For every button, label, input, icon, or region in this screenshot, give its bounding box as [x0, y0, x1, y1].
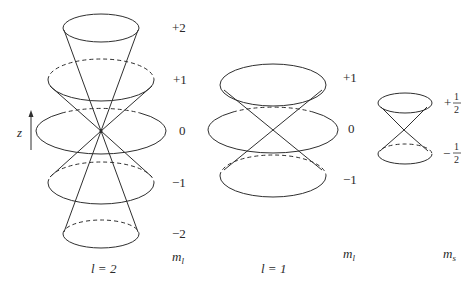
panel-l2: +2 +1 0 −1 −2 ml l = 2 — [36, 14, 187, 276]
label-l1-m+1: +1 — [343, 70, 357, 85]
ellipse-l2-m-2-back — [63, 220, 139, 234]
origin-point — [99, 129, 102, 132]
ellipse-l2-m-2-front — [63, 234, 139, 248]
label-l2-m0: 0 — [179, 123, 186, 138]
z-axis-arrow-icon — [29, 110, 34, 150]
svg-text:1: 1 — [454, 141, 459, 152]
column-label-ms: ms — [443, 246, 456, 263]
svg-text:2: 2 — [454, 104, 459, 115]
svg-text:1: 1 — [454, 91, 459, 102]
ellipse-l2-m-1-front — [48, 183, 154, 204]
panel-spin: + 1 2 − 1 2 ms — [378, 91, 461, 263]
svg-text:−: − — [443, 146, 450, 161]
ellipse-l2-m0 — [36, 131, 166, 154]
label-ms-minus-half: − 1 2 — [443, 141, 461, 165]
cone-lines-l1 — [224, 90, 322, 170]
column-label-ml-1: ml — [172, 249, 184, 266]
label-l2-m-2: −2 — [172, 226, 186, 241]
label-l2-m+2: +2 — [172, 20, 186, 35]
ellipse-l2-m-1-back — [48, 162, 154, 183]
panel-l1: +1 0 −1 ml l = 1 — [208, 64, 357, 276]
diagram-canvas: z — [0, 0, 475, 281]
z-axis-label: z — [16, 125, 22, 140]
label-l2-m+1: +1 — [173, 72, 187, 87]
label-l1-m0: 0 — [348, 121, 355, 136]
ellipse-l2-m+2 — [63, 14, 139, 42]
ellipse-l1-m+1 — [220, 64, 326, 106]
label-ms-plus-half: + 1 2 — [444, 91, 461, 115]
ellipse-l1-m-1-back — [220, 155, 326, 176]
svg-text:2: 2 — [454, 154, 459, 165]
ellipse-l2-m+1-back — [48, 59, 154, 80]
ellipse-l1-m-1-front — [220, 176, 326, 197]
ellipse-l1-m0 — [208, 130, 338, 153]
ellipse-ms-minus-half-front — [378, 154, 432, 164]
label-l1-m-1: −1 — [343, 172, 357, 187]
column-label-ml-2: ml — [343, 246, 355, 263]
ellipse-ms-plus-half — [378, 93, 432, 113]
caption-l1: l = 1 — [261, 261, 286, 276]
label-l2-m-1: −1 — [172, 175, 186, 190]
svg-text:+: + — [444, 95, 451, 110]
caption-l2: l = 2 — [91, 261, 117, 276]
